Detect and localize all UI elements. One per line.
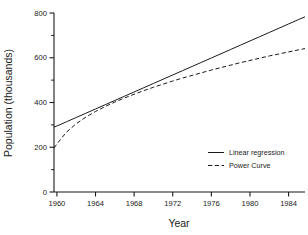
y-tick-label: 600 [34, 53, 47, 62]
x-tick-label: 1976 [203, 199, 220, 208]
y-tick-label: 200 [34, 143, 47, 152]
x-tick-label: 1984 [280, 199, 297, 208]
x-tick-label: 1960 [48, 199, 65, 208]
x-tick-label: 1980 [242, 199, 259, 208]
x-tick-label: 1968 [126, 199, 143, 208]
x-axis-title: Year [168, 217, 190, 229]
y-tick-label: 0 [43, 188, 47, 197]
x-tick-label: 1964 [87, 199, 104, 208]
y-tick-label: 800 [34, 9, 47, 18]
y-tick-label: 400 [34, 98, 47, 107]
x-tick-label: 1972 [164, 199, 181, 208]
legend-label-power-curve: Power Curve [229, 161, 271, 170]
population-trend-chart: 0200400600800 19601964196819721976198019… [0, 0, 308, 235]
legend-label-linear-regression: Linear regression [229, 148, 285, 157]
y-axis-title: Population (thousands) [2, 49, 14, 157]
